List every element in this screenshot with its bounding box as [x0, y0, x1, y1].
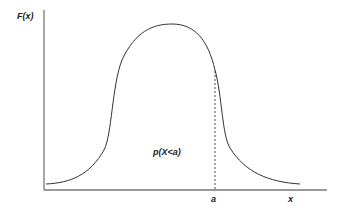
y-axis-label: F(x) [17, 11, 34, 21]
x-axis-label: x [288, 194, 293, 204]
density-curve [46, 24, 300, 184]
region-label: p(X<a) [153, 147, 181, 157]
bell-curve-plot [0, 0, 342, 210]
marker-label: a [211, 194, 216, 204]
